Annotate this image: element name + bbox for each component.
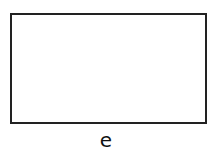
shape-label: e xyxy=(0,128,212,152)
rectangle-shape xyxy=(10,13,207,124)
